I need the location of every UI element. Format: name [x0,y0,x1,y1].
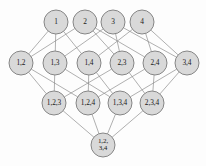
lattice-node[interactable]: 3 [101,10,125,34]
node-label: 1,4 [85,58,94,67]
lattice-node[interactable]: 1,2,3 [42,91,66,115]
node-label: 1,3 [51,58,60,67]
lattice-node[interactable]: 1,2 [9,51,33,75]
node-label: 1 [54,17,58,26]
lattice-edge [116,34,120,52]
edge-layer [29,28,179,137]
lattice-canvas: 12341,21,31,42,32,43,41,2,31,2,41,3,42,3… [0,0,206,166]
lattice-edge [29,31,48,54]
lattice-node[interactable]: 1,3,4 [108,91,132,115]
lattice-edge [29,72,47,93]
lattice-node[interactable]: 1,2,4 [76,91,100,115]
lattice-node[interactable]: 1,2,3,4 [91,133,115,157]
lattice-edge [160,72,179,94]
node-label: 1,3,4 [113,98,128,107]
lattice-edge [93,31,114,54]
subset-lattice-diagram: 12341,21,31,42,32,43,41,2,31,2,41,3,42,3… [0,0,206,166]
lattice-node[interactable]: 2,4 [143,51,167,75]
lattice-node[interactable]: 2 [73,10,97,34]
node-label: 3 [111,17,115,26]
lattice-node[interactable]: 3,4 [175,51,199,75]
node-label: 4 [140,17,144,26]
lattice-edge [108,114,116,134]
node-label: 2,3,4 [145,98,160,107]
lattice-edge [92,114,99,133]
lattice-edge [129,73,145,94]
node-label: 2,4 [151,58,160,67]
lattice-node[interactable]: 1,3 [43,51,67,75]
node-label: 3,4 [183,58,192,67]
lattice-node[interactable]: 1 [44,10,68,34]
node-label: 2,3 [118,58,127,67]
lattice-node[interactable]: 4 [130,10,154,34]
node-label: 1,2 [17,58,26,67]
node-label: 3,4 [99,144,108,152]
node-label: 1,2,3 [47,98,62,107]
lattice-edge [96,72,112,93]
lattice-node[interactable]: 2,3 [110,51,134,75]
lattice-node[interactable]: 2,3,4 [140,91,164,115]
lattice-node[interactable]: 1,4 [77,51,101,75]
node-label: 2 [83,17,87,26]
node-label: 1,2,4 [81,98,96,107]
